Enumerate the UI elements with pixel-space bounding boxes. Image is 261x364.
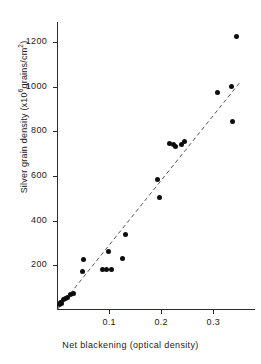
data-point	[106, 249, 111, 254]
data-point	[123, 232, 128, 237]
regression-trend-line	[57, 22, 255, 310]
trend-line-segment	[57, 82, 240, 310]
x-tick-mark	[109, 310, 110, 314]
x-axis-title: Net blackening (optical density)	[0, 340, 261, 350]
data-point	[81, 257, 86, 262]
data-point	[104, 267, 109, 272]
x-tick-label: 0.3	[198, 317, 228, 327]
y-tick-label: 200	[0, 259, 47, 269]
plot-area	[57, 22, 255, 310]
x-tick-label: 0.1	[94, 317, 124, 327]
data-point	[155, 177, 160, 182]
y-axis-title-main: Silver grain density (x10	[19, 92, 29, 193]
x-tick-mark	[213, 310, 214, 314]
y-axis-title-exponent2: 2	[17, 44, 24, 48]
y-axis-title: Silver grain density (x106grains/cm2)	[19, 17, 29, 217]
data-point	[109, 267, 114, 272]
data-point	[230, 119, 235, 124]
y-axis-title-exponent: 6	[17, 88, 24, 92]
data-point	[173, 144, 178, 149]
scatter-plot-figure: 20040060080010001200 0.10.20.3 Silver gr…	[0, 0, 261, 364]
x-tick-mark	[161, 310, 162, 314]
data-point	[120, 256, 125, 261]
y-axis-title-close: )	[19, 41, 29, 44]
data-point	[229, 84, 234, 89]
y-axis-title-units: grains/cm	[19, 48, 29, 89]
x-tick-label: 0.2	[146, 317, 176, 327]
